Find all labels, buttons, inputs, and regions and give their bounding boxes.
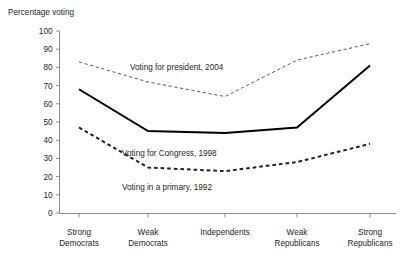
y-tick-label: 20 [43, 173, 53, 182]
y-tick-label: 0 [48, 209, 53, 218]
annotation-president: Voting for president, 2004 [130, 63, 224, 72]
annotation-primary: Voting in a primary, 1992 [122, 183, 212, 192]
line-chart: Percentage voting 0102030405060708090100… [0, 0, 404, 264]
y-tick-label: 60 [43, 100, 53, 109]
y-tick-label: 10 [43, 191, 53, 200]
y-tick-label: 80 [43, 63, 53, 72]
y-tick-label: 90 [43, 45, 53, 54]
y-tick-label: 30 [43, 154, 53, 163]
y-tick-label: 50 [43, 118, 53, 127]
y-axis-title: Percentage voting [8, 8, 74, 17]
y-tick-label: 100 [39, 27, 53, 36]
y-tick-label: 40 [43, 136, 53, 145]
x-tick-label: Independents [200, 228, 250, 237]
annotation-congress: Voting for Congress, 1998 [122, 149, 217, 158]
chart-container: Percentage voting 0102030405060708090100… [0, 0, 404, 264]
y-tick-label: 70 [43, 82, 53, 91]
